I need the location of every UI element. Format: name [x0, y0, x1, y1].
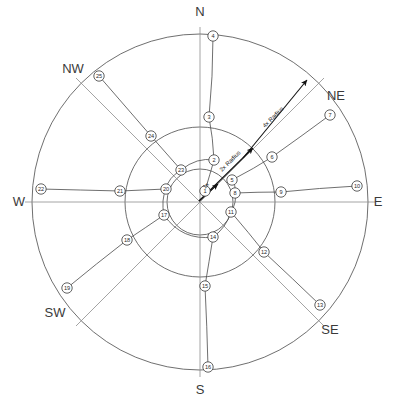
connector-20-21	[120, 189, 166, 191]
node-label-25: 25	[96, 73, 102, 79]
node-9[interactable]: 9	[276, 187, 286, 197]
node-label-13: 13	[317, 302, 323, 308]
node-3[interactable]: 3	[204, 112, 214, 122]
compass-label-nw: NW	[62, 61, 84, 76]
node-label-10: 10	[354, 183, 360, 189]
node-24[interactable]: 24	[146, 131, 156, 141]
connector-11-12	[231, 212, 264, 252]
node-19[interactable]: 19	[62, 283, 72, 293]
node-label-2: 2	[212, 157, 215, 163]
node-22[interactable]: 22	[36, 184, 46, 194]
connector-3-4	[209, 36, 213, 117]
connector-9-10	[281, 186, 357, 192]
connector-5-6	[232, 157, 272, 180]
compass-label-ne: NE	[327, 88, 345, 103]
connector-21-22	[41, 189, 120, 191]
connector-12-13	[264, 252, 320, 305]
connector-18-19	[67, 240, 127, 288]
node-2[interactable]: 2	[209, 155, 219, 165]
compass-layer: NNEESESSWWNW	[13, 4, 383, 397]
node-label-14: 14	[210, 234, 216, 240]
node-label-22: 22	[38, 186, 44, 192]
node-20[interactable]: 20	[161, 184, 171, 194]
node-label-11: 11	[228, 209, 234, 215]
node-label-4: 4	[211, 33, 214, 39]
compass-label-sw: SW	[45, 305, 67, 320]
node-7[interactable]: 7	[325, 110, 335, 120]
node-11[interactable]: 11	[226, 207, 236, 217]
compass-label-w: W	[13, 194, 26, 209]
node-25[interactable]: 25	[94, 71, 104, 81]
node-label-18: 18	[124, 237, 130, 243]
node-10[interactable]: 10	[352, 181, 362, 191]
node-label-7: 7	[328, 112, 331, 118]
node-23[interactable]: 23	[176, 165, 186, 175]
node-label-21: 21	[117, 188, 123, 194]
node-13[interactable]: 13	[315, 300, 325, 310]
connector-15-16	[205, 286, 208, 367]
node-label-20: 20	[163, 186, 169, 192]
node-label-19: 19	[64, 285, 70, 291]
node-14[interactable]: 14	[208, 232, 218, 242]
node-5[interactable]: 5	[227, 175, 237, 185]
node-8[interactable]: 8	[230, 188, 240, 198]
compass-label-n: N	[195, 4, 204, 19]
node-label-24: 24	[148, 133, 154, 139]
connector-2-3	[209, 117, 214, 160]
node-16[interactable]: 16	[203, 362, 213, 372]
node-label-5: 5	[230, 177, 233, 183]
node-12[interactable]: 12	[259, 247, 269, 257]
compass-label-e: E	[374, 194, 383, 209]
node-label-23: 23	[178, 167, 184, 173]
node-17[interactable]: 17	[159, 210, 169, 220]
polar-diagram-svg: 1234567891011121314151617181920212223242…	[0, 0, 395, 406]
connector-23-24	[151, 136, 181, 170]
connector-17-18	[127, 215, 164, 240]
radius-arrows-group	[199, 80, 307, 201]
node-label-3: 3	[207, 114, 210, 120]
connector-14-15	[205, 237, 213, 286]
node-label-6: 6	[270, 154, 273, 160]
node-label-12: 12	[261, 249, 267, 255]
node-6[interactable]: 6	[267, 152, 277, 162]
node-label-15: 15	[202, 283, 208, 289]
diagram-canvas: 1234567891011121314151617181920212223242…	[0, 0, 395, 406]
node-label-17: 17	[161, 212, 167, 218]
node-21[interactable]: 21	[115, 186, 125, 196]
node-15[interactable]: 15	[200, 281, 210, 291]
node-label-16: 16	[205, 364, 211, 370]
compass-label-se: SE	[321, 322, 339, 337]
radius-annotation-4x: 4x Radius	[261, 106, 284, 129]
radius-annotation-2x: 2x Radius	[218, 150, 241, 173]
node-18[interactable]: 18	[122, 235, 132, 245]
node-label-8: 8	[233, 190, 236, 196]
node-label-9: 9	[279, 189, 282, 195]
node-4[interactable]: 4	[208, 31, 218, 41]
compass-label-s: S	[196, 382, 205, 397]
